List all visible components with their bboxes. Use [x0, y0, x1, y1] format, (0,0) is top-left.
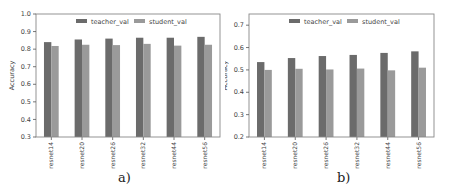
x-tick-label: resnet26: [109, 142, 116, 169]
bar-student_val: [143, 44, 150, 137]
bar-teacher_val: [288, 58, 295, 137]
bar-teacher_val: [75, 39, 82, 137]
x-tick-label: resnet26: [322, 142, 329, 169]
y-tick-label: 0.9: [21, 28, 31, 36]
x-tick-label: resnet44: [170, 142, 177, 169]
bar-teacher_val: [319, 56, 326, 137]
y-tick-label: 0.2: [234, 133, 244, 141]
legend-label-teacher_val: teacher_val: [91, 18, 129, 26]
y-tick-label: 0.8: [21, 45, 31, 53]
plot-frame: [249, 14, 434, 137]
bar-student_val: [264, 70, 271, 137]
bar-student_val: [388, 70, 395, 137]
x-tick-label: resnet56: [201, 142, 208, 169]
y-axis-label: Accuracy: [8, 61, 16, 91]
bar-teacher_val: [350, 55, 357, 137]
legend-label-student_val: student_val: [149, 18, 187, 26]
bar-teacher_val: [411, 51, 418, 137]
y-tick-label: 0.7: [21, 63, 31, 71]
y-tick-label: 0.4: [21, 116, 31, 124]
bar-student_val: [205, 45, 212, 137]
chart-b-panel: resnet14resnet20resnet26resnet32resnet44…: [225, 0, 449, 194]
bar-student_val: [295, 69, 302, 137]
y-tick-label: 1.0: [21, 10, 31, 18]
legend-label-teacher_val: teacher_val: [304, 18, 342, 26]
bar-teacher_val: [257, 62, 264, 137]
bar-teacher_val: [167, 38, 174, 137]
x-tick-label: resnet14: [260, 142, 267, 169]
x-tick-label: resnet32: [139, 142, 146, 169]
bar-teacher_val: [105, 39, 112, 137]
x-tick-label: resnet44: [384, 142, 391, 169]
chart-a-panel: resnet14resnet20resnet26resnet32resnet44…: [0, 0, 225, 194]
bar-teacher_val: [197, 37, 204, 137]
y-tick-label: 0.3: [234, 111, 244, 119]
y-tick-label: 0.6: [21, 80, 31, 88]
legend: teacher_valstudent_val: [76, 18, 187, 26]
y-axis-label: Accuracy: [225, 61, 229, 91]
bar-teacher_val: [380, 53, 387, 137]
bar-teacher_val: [136, 38, 143, 137]
y-tick-label: 0.6: [234, 44, 244, 52]
chart-b-caption: b): [337, 170, 350, 185]
y-tick-label: 0.5: [234, 66, 244, 74]
y-tick-label: 0.3: [21, 133, 31, 141]
x-tick-label: resnet32: [353, 142, 360, 169]
chart-a: resnet14resnet20resnet26resnet32resnet44…: [0, 0, 225, 194]
bar-teacher_val: [44, 42, 51, 137]
plot-frame: [36, 14, 220, 137]
y-tick-label: 0.5: [21, 98, 31, 106]
chart-b: resnet14resnet20resnet26resnet32resnet44…: [225, 0, 449, 194]
bar-student_val: [51, 46, 58, 137]
chart-a-caption: a): [118, 170, 131, 185]
legend-label-student_val: student_val: [362, 18, 400, 26]
y-tick-label: 0.7: [234, 21, 244, 29]
x-tick-label: resnet14: [47, 142, 54, 169]
bar-student_val: [419, 68, 426, 137]
legend-swatch-teacher_val: [289, 19, 300, 23]
legend-swatch-student_val: [134, 19, 145, 23]
x-tick-label: resnet20: [291, 142, 298, 169]
legend: teacher_valstudent_val: [289, 18, 400, 26]
bar-student_val: [113, 45, 120, 137]
bar-student_val: [82, 45, 89, 137]
bar-student_val: [357, 69, 364, 137]
bar-student_val: [326, 69, 333, 137]
y-tick-label: 0.4: [234, 88, 244, 96]
legend-swatch-teacher_val: [76, 19, 87, 23]
x-tick-label: resnet20: [78, 142, 85, 169]
bar-student_val: [174, 46, 181, 137]
x-tick-label: resnet56: [415, 142, 422, 169]
legend-swatch-student_val: [347, 19, 358, 23]
